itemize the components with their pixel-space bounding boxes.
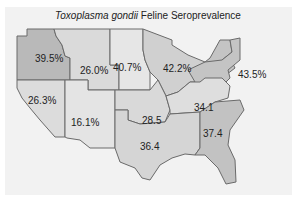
- label-california-nevada: 26.3%: [28, 95, 56, 106]
- label-pacific-northwest: 39.5%: [35, 53, 63, 64]
- label-southwest: 16.1%: [71, 117, 99, 128]
- label-plains-north: 40.7%: [113, 62, 141, 73]
- label-central: 28.5: [142, 115, 162, 126]
- label-northeast: 43.5%: [238, 69, 266, 80]
- label-mid-atlantic: 34.1: [194, 102, 214, 113]
- region-southwest: [65, 80, 115, 148]
- label-south-central: 36.4: [140, 141, 160, 152]
- region-california-nevada: [17, 80, 65, 137]
- us-map: 39.5% 26.0% 40.7% 42.2% 43.5% 26.3% 16.1…: [0, 0, 296, 202]
- label-mountain-north: 26.0%: [80, 65, 108, 76]
- label-great-lakes: 42.2%: [163, 63, 191, 74]
- label-southeast: 37.4: [203, 128, 223, 139]
